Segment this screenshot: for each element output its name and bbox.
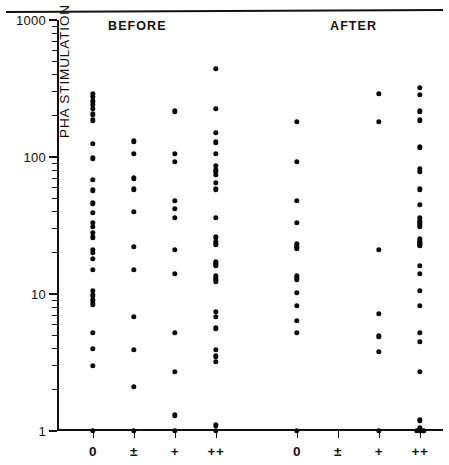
data-point [294, 220, 299, 225]
y-tick-label: 10 [31, 287, 46, 302]
data-point [376, 349, 381, 354]
y-tick-major [49, 156, 57, 158]
data-point [417, 330, 422, 335]
data-point [417, 271, 422, 276]
data-point [294, 290, 299, 295]
data-point [294, 428, 299, 433]
data-point [417, 339, 422, 344]
data-point [213, 130, 218, 135]
data-point [172, 247, 177, 252]
data-point [213, 140, 218, 145]
data-point [172, 159, 177, 164]
data-point [294, 159, 299, 164]
x-tick-label: + [171, 444, 179, 459]
y-tick-minor [52, 324, 57, 325]
top-rule [6, 9, 443, 13]
data-point [213, 428, 218, 433]
y-tick-minor [52, 115, 57, 116]
data-point [417, 92, 422, 97]
x-tick-label: ± [334, 444, 342, 459]
data-point [417, 169, 422, 174]
data-point [172, 369, 177, 374]
data-point [417, 369, 422, 374]
data-point [294, 198, 299, 203]
data-point [376, 119, 381, 124]
data-point [417, 263, 422, 268]
y-tick-minor [52, 300, 57, 301]
data-point [131, 187, 136, 192]
data-point [172, 206, 177, 211]
y-tick-minor [52, 74, 57, 75]
y-tick-minor [52, 307, 57, 308]
data-point [90, 267, 95, 272]
data-point [90, 118, 95, 123]
data-point [90, 302, 95, 307]
data-point [131, 347, 136, 352]
data-point [417, 288, 422, 293]
data-point [376, 428, 381, 433]
data-point [213, 263, 218, 268]
y-tick-major [49, 430, 57, 432]
data-point [213, 278, 218, 283]
y-tick-label: 100 [23, 150, 46, 165]
data-point [417, 303, 422, 308]
data-point [131, 176, 136, 181]
data-point [131, 151, 136, 156]
x-tick [338, 431, 339, 438]
y-tick-minor [52, 41, 57, 42]
data-point [421, 428, 426, 433]
data-point [90, 188, 95, 193]
data-point [131, 267, 136, 272]
data-point [417, 144, 422, 149]
data-point [376, 247, 381, 252]
data-point [90, 256, 95, 261]
y-tick-minor [52, 178, 57, 179]
x-axis-line [57, 429, 443, 431]
figure-root: BEFORE AFTER PHA STIMULATION (CPM×102) D… [0, 0, 449, 465]
data-point [131, 244, 136, 249]
data-point [294, 303, 299, 308]
data-point [417, 109, 422, 114]
data-point [417, 85, 422, 90]
y-tick-minor [52, 335, 57, 336]
data-point [294, 330, 299, 335]
y-tick-label: 1000 [16, 13, 46, 28]
data-point [417, 202, 422, 207]
data-point [172, 428, 177, 433]
data-point [90, 200, 95, 205]
data-point [213, 359, 218, 364]
data-point [213, 66, 218, 71]
y-tick-minor [52, 91, 57, 92]
data-point [172, 198, 177, 203]
x-tick-label: ++ [412, 444, 429, 459]
data-point [90, 141, 95, 146]
data-point [90, 224, 95, 229]
data-point [213, 172, 218, 177]
data-point [172, 109, 177, 114]
y-tick-minor [52, 170, 57, 171]
data-point [172, 413, 177, 418]
y-tick-major [49, 293, 57, 295]
y-tick-minor [52, 228, 57, 229]
data-point [213, 215, 218, 220]
y-tick-label: 1 [38, 424, 46, 439]
data-point [213, 347, 218, 352]
data-point [294, 318, 299, 323]
data-point [90, 250, 95, 255]
data-point [172, 215, 177, 220]
y-axis-title-text: PHA STIMULATION (CPM×10 [57, 0, 72, 138]
y-axis-title: PHA STIMULATION (CPM×102) [55, 0, 72, 138]
y-tick-minor [52, 198, 57, 199]
y-tick-minor [52, 33, 57, 34]
data-point [90, 330, 95, 335]
data-point [294, 277, 299, 282]
x-tick-label: 0 [89, 444, 97, 459]
data-point [90, 210, 95, 215]
data-point [213, 151, 218, 156]
data-point [131, 139, 136, 144]
y-tick-minor [52, 348, 57, 349]
data-point [376, 311, 381, 316]
data-point [131, 314, 136, 319]
x-tick-label: + [375, 444, 383, 459]
data-point [90, 234, 95, 239]
